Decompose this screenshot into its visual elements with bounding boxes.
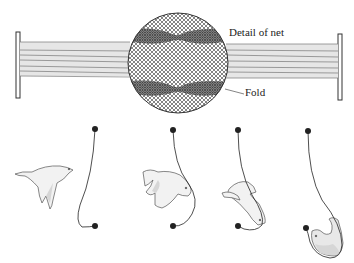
bird-falling-icon [222, 182, 265, 225]
detail-of-net-label: Detail of net [229, 27, 284, 38]
sequence-step-2 [143, 127, 195, 229]
sequence-step-3 [222, 127, 265, 230]
left-pole [16, 32, 20, 98]
net-right [226, 44, 338, 78]
mist-net-diagram: Detail of net Fold [0, 0, 354, 263]
fold-leader-line [225, 89, 244, 94]
net-string-1 [78, 126, 98, 229]
bird-striking-icon [143, 170, 191, 208]
net-detail-circle [128, 13, 228, 113]
sequence-step-4 [303, 128, 343, 258]
bird-in-pocket-icon [312, 218, 344, 256]
sequence-step-1 [15, 126, 98, 229]
right-pole [338, 34, 342, 100]
fold-label: Fold [245, 87, 265, 98]
bird-flying-icon [15, 166, 73, 209]
net-left [20, 42, 130, 77]
